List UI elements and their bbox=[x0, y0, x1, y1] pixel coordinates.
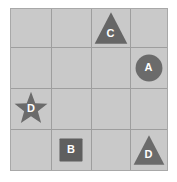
shape-label: D bbox=[145, 149, 153, 160]
shape-label: B bbox=[67, 144, 75, 155]
grid-cell-r2c4[interactable]: A bbox=[130, 47, 167, 88]
shape-triangle-d[interactable]: D bbox=[133, 134, 165, 166]
grid-cell-r3c1[interactable]: D bbox=[11, 88, 51, 129]
grid-cell-r4c4[interactable]: D bbox=[130, 129, 167, 170]
shape-label: D bbox=[27, 103, 35, 114]
shape-label: A bbox=[145, 62, 153, 73]
shape-star-d[interactable]: D bbox=[13, 91, 49, 127]
shape-triangle-c[interactable]: C bbox=[94, 11, 128, 45]
shape-label: C bbox=[107, 28, 115, 39]
shape-circle-a[interactable]: A bbox=[135, 54, 163, 82]
shape-grid-board: CADBD bbox=[10, 8, 168, 171]
shape-square-b[interactable]: B bbox=[59, 138, 83, 162]
grid-cell-r4c2[interactable]: B bbox=[51, 129, 91, 170]
grid-cell-r1c3[interactable]: C bbox=[91, 9, 130, 47]
